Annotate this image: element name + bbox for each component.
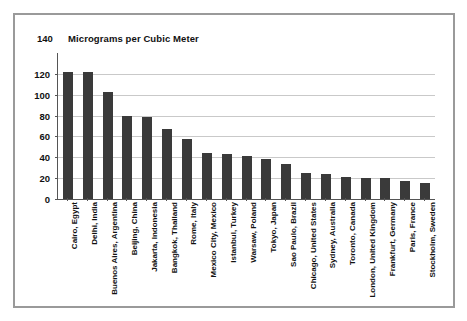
x-axis-labels: Cairo, EgyptDelhi, IndiaBuenos Aires, Ar… [57,202,434,306]
x-axis-tick-mark [265,198,266,201]
bar [261,159,271,199]
bar [202,153,212,199]
x-axis-label: Stockholm, Sweden [428,202,437,278]
y-axis-tick-label: 80 [39,110,50,121]
x-axis-tick-mark [226,198,227,201]
x-axis-tick-mark [305,198,306,201]
bar [222,154,232,199]
bar [361,178,371,199]
bar [380,178,390,199]
x-axis-label: Beijing, China [130,202,139,255]
x-axis-label: Sao Paulo, Brazil [289,202,298,267]
x-axis-tick-mark [404,198,405,201]
x-axis-label: Tokyo, Japan [269,202,278,253]
x-axis-tick-mark [126,198,127,201]
x-axis-label: Sydney, Australia [328,202,337,268]
x-axis-tick-mark [345,198,346,201]
bar [63,72,73,199]
x-axis-label: Cairo, Egypt [70,202,79,249]
bar [122,116,132,199]
bar [142,117,152,199]
figure-frame: 140 Micrograms per Cubic Meter 020406080… [13,13,455,308]
x-axis-tick-mark [206,198,207,201]
bars-group [58,53,435,199]
x-axis-tick-mark [384,198,385,201]
x-axis-label: Frankfurt, Germany [388,202,397,276]
x-axis-tick-mark [285,198,286,201]
x-axis-label: Buenos Aires, Argentina [110,202,119,295]
y-axis-tick-mark: 0 [55,199,58,200]
x-axis-label: Rome, Italy [189,202,198,245]
bar [242,156,252,199]
x-axis-label: Bangkok, Thailand [170,202,179,273]
bar [83,72,93,199]
x-axis-tick-mark [325,198,326,201]
x-axis-label: Mexico City, Mexico [209,202,218,277]
bar [182,139,192,199]
x-axis-label: Istanbul, Turkey [229,202,238,263]
x-axis-tick-mark [186,198,187,201]
y-axis-tick-label: 120 [34,68,50,79]
y-axis-tick-label: 0 [45,194,50,205]
x-axis-tick-mark [246,198,247,201]
x-axis-tick-mark [424,198,425,201]
x-axis-tick-mark [67,198,68,201]
y-axis-tick-label: 20 [39,173,50,184]
x-axis-label: Jakarta, Indonesia [150,202,159,272]
x-axis-tick-mark [87,198,88,201]
x-axis-tick-mark [146,198,147,201]
bar [420,183,430,199]
bar [301,173,311,199]
chart-title: Micrograms per Cubic Meter [68,33,199,44]
bar [281,164,291,199]
x-axis-tick-mark [107,198,108,201]
plot-area: 020406080100120 [57,53,435,200]
bar [341,177,351,199]
x-axis-label: Delhi, India [90,202,99,245]
x-axis-tick-mark [365,198,366,201]
bar [321,174,331,199]
y-axis-tick-label: 100 [34,89,50,100]
y-axis-top-tick-label: 140 [37,33,53,44]
x-axis-label: Toronto, Canada [348,202,357,265]
x-axis-label: Warsaw, Poland [249,202,258,263]
y-axis-tick-label: 60 [39,131,50,142]
x-axis-label: Paris, France [408,202,417,252]
bar [103,92,113,199]
x-axis-label: Chicago, United States [309,202,318,289]
y-axis-tick-label: 40 [39,152,50,163]
x-axis-label: London, United Kingdom [368,202,377,298]
bar [400,181,410,199]
x-axis-tick-mark [166,198,167,201]
bar [162,129,172,199]
